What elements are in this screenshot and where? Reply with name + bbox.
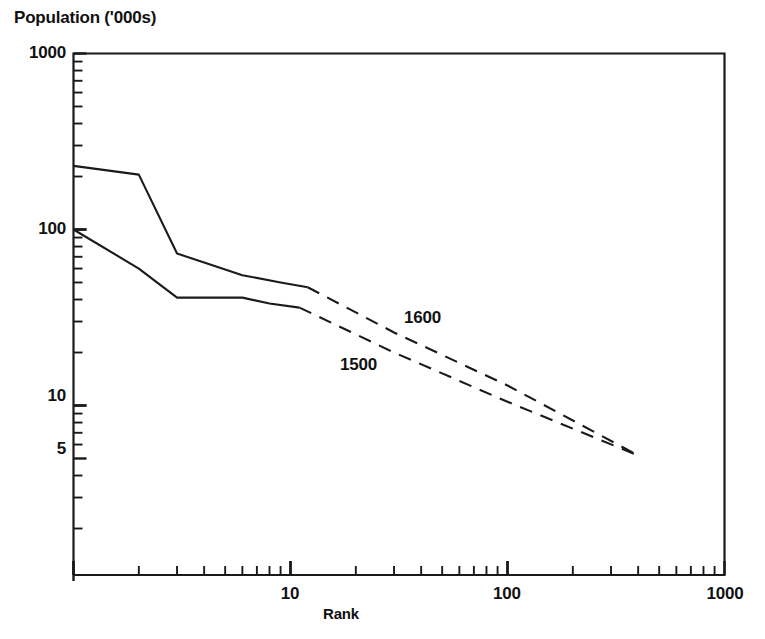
x-axis-title: Rank: [323, 605, 359, 622]
y-axis-title: Population ('000s): [14, 8, 156, 28]
y-axis-ticks: [74, 54, 87, 529]
series-label-1600: 1600: [404, 308, 441, 328]
series-line-1600-solid: [74, 166, 308, 287]
data-series-group: [74, 166, 639, 456]
y-tick-label-1000: 1000: [14, 43, 66, 63]
x-tick-label-1000: 1000: [694, 584, 756, 604]
y-tick-label-5: 5: [14, 439, 66, 459]
series-label-1500: 1500: [340, 355, 377, 375]
x-tick-label-10: 10: [260, 584, 320, 604]
series-line-1500-solid: [74, 230, 300, 308]
series-line-1500-dashed: [299, 308, 638, 456]
y-tick-label-100: 100: [14, 219, 66, 239]
plot-area: [0, 0, 765, 639]
chart-figure: Population ('000s) 1000 100 10 5 10 100 …: [0, 0, 765, 639]
x-axis-ticks: [74, 561, 725, 581]
x-tick-label-100: 100: [477, 584, 537, 604]
axis-frame-path: [74, 54, 725, 576]
y-tick-label-10: 10: [14, 386, 66, 406]
axis-frame: [74, 54, 725, 576]
